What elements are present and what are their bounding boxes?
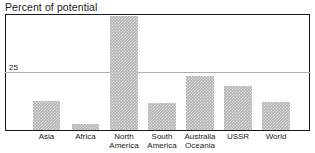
bars-layer: [0, 0, 315, 153]
bar-world: [262, 102, 290, 130]
bar-north-america: [110, 16, 138, 130]
xtick-label-africa: Africa: [69, 133, 102, 142]
bar-asia: [33, 101, 60, 130]
xtick-label-australia-oceania-line1: Australia: [184, 132, 215, 141]
xtick-label-world-line1: World: [266, 132, 287, 141]
bar-chart: Percent of potential 25 Asia Africa Nort…: [0, 0, 315, 153]
xtick-label-ussr-line1: USSR: [227, 132, 249, 141]
bar-australia-oceania: [186, 76, 214, 130]
xtick-label-north-america: North America: [105, 133, 143, 150]
xtick-label-africa-line1: Africa: [75, 132, 95, 141]
xtick-label-world: World: [259, 133, 293, 142]
xtick-label-north-america-line1: North: [114, 132, 134, 141]
xtick-label-asia: Asia: [30, 133, 63, 142]
bar-south-america: [148, 103, 176, 130]
xtick-label-australia-oceania: Australia Oceania: [179, 133, 221, 150]
bar-ussr: [224, 86, 252, 130]
xtick-label-ussr: USSR: [221, 133, 255, 142]
xtick-label-south-america-line1: South: [152, 132, 173, 141]
xtick-label-north-america-line2: America: [105, 142, 143, 151]
xtick-label-south-america-line2: America: [143, 142, 181, 151]
xtick-label-south-america: South America: [143, 133, 181, 150]
xtick-label-australia-oceania-line2: Oceania: [179, 142, 221, 151]
bar-africa: [72, 124, 99, 130]
xtick-label-asia-line1: Asia: [39, 132, 55, 141]
